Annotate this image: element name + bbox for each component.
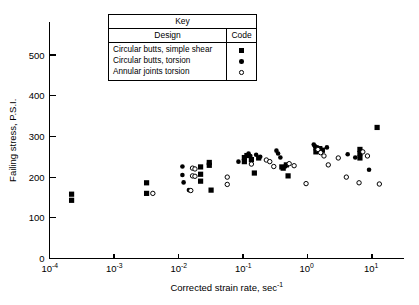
data-point-s2-18 bbox=[326, 163, 330, 167]
data-point-s0-27 bbox=[375, 125, 380, 130]
chart-legend: Key Design Code Circular butts, simple s… bbox=[108, 14, 257, 81]
data-point-s2-19 bbox=[336, 156, 340, 160]
x-tick-label--4: 10-4 bbox=[42, 262, 59, 274]
legend-header-code: Code bbox=[226, 29, 256, 42]
data-point-s2-0 bbox=[151, 191, 155, 195]
data-point-s0-0 bbox=[69, 192, 74, 197]
data-point-s2-7 bbox=[225, 182, 229, 186]
data-point-s0-9 bbox=[208, 188, 213, 193]
data-points-group bbox=[69, 125, 382, 203]
x-tick-label--2: 10-2 bbox=[171, 262, 188, 274]
data-point-s1-7 bbox=[254, 152, 259, 157]
data-point-s1-2 bbox=[181, 180, 186, 185]
data-point-s2-5 bbox=[189, 188, 193, 192]
data-point-s2-2 bbox=[193, 167, 197, 171]
data-point-s2-17 bbox=[322, 154, 326, 158]
legend-header-row: Design Code bbox=[109, 29, 256, 43]
y-tick-label-500: 500 bbox=[29, 50, 45, 61]
legend-code-column bbox=[226, 43, 256, 80]
data-point-s2-6 bbox=[225, 175, 229, 179]
data-point-s1-8 bbox=[258, 154, 263, 159]
y-axis-title: Failing stress, P.S.I. bbox=[7, 99, 18, 182]
data-point-s2-8 bbox=[249, 162, 253, 166]
legend-row-code-2 bbox=[227, 67, 256, 78]
legend-title-row: Key bbox=[109, 15, 256, 29]
data-point-s0-6 bbox=[198, 179, 203, 184]
data-point-s0-14 bbox=[252, 170, 257, 175]
legend-row-label-0: Circular butts, simple shear bbox=[113, 45, 226, 56]
data-point-s0-5 bbox=[198, 172, 203, 177]
y-tick-label-100: 100 bbox=[29, 212, 45, 223]
legend-title: Key bbox=[175, 17, 190, 26]
data-point-s1-10 bbox=[276, 151, 281, 156]
y-tick-label-200: 200 bbox=[29, 172, 45, 183]
data-point-s1-17 bbox=[325, 145, 330, 150]
data-point-s1-20 bbox=[367, 167, 372, 172]
legend-row-label-1: Circular butts, torsion bbox=[113, 56, 226, 67]
x-axis-title: Corrected strain rate, sec-1 bbox=[170, 281, 283, 293]
x-tick-label--3: 10-3 bbox=[106, 262, 123, 274]
legend-marker-filled-circle-icon bbox=[239, 59, 244, 64]
legend-row-code-0 bbox=[227, 45, 256, 56]
data-point-s2-10 bbox=[268, 159, 272, 163]
data-point-s2-12 bbox=[287, 161, 291, 165]
x-tick-label-1: 101 bbox=[364, 262, 379, 274]
data-point-s0-2 bbox=[144, 180, 149, 185]
legend-row-code-1 bbox=[227, 56, 256, 67]
data-point-s0-11 bbox=[242, 159, 247, 164]
y-tick-label-300: 300 bbox=[29, 131, 45, 142]
legend-marker-open-circle-icon bbox=[239, 70, 244, 75]
data-point-s1-11 bbox=[278, 155, 283, 160]
axis-labels-group: 010020030040050010-410-310-210-1100101Fa… bbox=[7, 50, 379, 293]
data-point-s1-0 bbox=[180, 164, 185, 169]
series-0 bbox=[69, 125, 380, 203]
legend-header-design: Design bbox=[109, 29, 226, 42]
scatter-chart-figure: 010020030040050010-410-310-210-1100101Fa… bbox=[0, 0, 419, 305]
data-point-s0-1 bbox=[69, 198, 74, 203]
data-point-s2-22 bbox=[361, 150, 365, 154]
data-point-s1-19 bbox=[353, 155, 358, 160]
legend-marker-filled-square-icon bbox=[239, 48, 244, 53]
data-point-s0-3 bbox=[144, 191, 149, 196]
data-point-s2-14 bbox=[304, 181, 308, 185]
data-point-s1-12 bbox=[283, 164, 288, 169]
data-point-s2-4 bbox=[193, 174, 197, 178]
data-point-s0-19 bbox=[285, 173, 290, 178]
data-point-s2-11 bbox=[272, 164, 276, 168]
x-tick-label-0: 100 bbox=[300, 262, 315, 274]
x-tick-label--1: 10-1 bbox=[235, 262, 252, 274]
data-point-s2-24 bbox=[377, 182, 381, 186]
data-point-s2-20 bbox=[344, 175, 348, 179]
data-point-s2-21 bbox=[357, 181, 361, 185]
legend-design-column: Circular butts, simple shearCircular but… bbox=[109, 43, 226, 80]
data-point-s0-8 bbox=[207, 163, 212, 168]
legend-body: Circular butts, simple shearCircular but… bbox=[109, 43, 256, 80]
data-point-s1-6 bbox=[248, 154, 253, 159]
data-point-s1-18 bbox=[345, 152, 350, 157]
legend-row-label-2: Annular joints torsion bbox=[113, 67, 226, 78]
data-point-s2-13 bbox=[292, 164, 296, 168]
data-point-s2-23 bbox=[365, 154, 369, 158]
data-point-s0-4 bbox=[198, 164, 203, 169]
data-point-s1-4 bbox=[236, 159, 241, 164]
y-tick-label-400: 400 bbox=[29, 90, 45, 101]
data-point-s1-1 bbox=[180, 173, 185, 178]
data-point-s0-26 bbox=[357, 155, 362, 160]
